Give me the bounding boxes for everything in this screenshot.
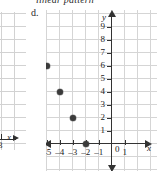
y-tick-label: 9: [94, 21, 105, 31]
x-axis-line: [46, 143, 149, 144]
y-tick-label: 3: [94, 99, 105, 109]
x-tick: [99, 140, 100, 145]
adjacent-grid: [0, 12, 26, 150]
y-tick: [107, 118, 112, 119]
y-axis-down-arrow-icon: [108, 165, 116, 171]
x-tick: [60, 140, 61, 145]
y-tick-label: 6: [94, 60, 105, 70]
y-tick: [107, 105, 112, 106]
scatter-plot: x y 0 –6–5–4–3–2–11 123456789: [46, 10, 157, 171]
data-point: [46, 63, 50, 69]
y-tick: [107, 92, 112, 93]
data-point: [70, 115, 76, 121]
adjacent-tick-label: 3: [0, 140, 3, 150]
data-point: [57, 89, 63, 95]
figure-letter-label: d.: [31, 7, 39, 18]
x-tick-label: 1: [117, 147, 133, 157]
adjacent-partial-figure: 3 x: [0, 12, 26, 150]
y-tick-label: 4: [94, 86, 105, 96]
x-tick: [47, 140, 48, 145]
x-tick: [125, 140, 126, 145]
y-tick-label: 5: [94, 73, 105, 83]
adjacent-x-axis-label: x: [7, 132, 11, 142]
y-tick: [107, 53, 112, 54]
y-tick: [107, 27, 112, 28]
y-tick-label: 8: [94, 34, 105, 44]
y-axis-up-arrow-icon: [108, 10, 116, 17]
y-tick-label: 1: [94, 125, 105, 135]
y-tick: [107, 131, 112, 132]
x-tick: [73, 140, 74, 145]
y-tick: [107, 66, 112, 67]
clipped-heading: linear pattern: [36, 0, 146, 5]
data-point: [83, 141, 89, 147]
x-tick-label: –1: [91, 147, 107, 157]
y-tick: [107, 79, 112, 80]
y-tick: [107, 40, 112, 41]
y-tick-label: 7: [94, 47, 105, 57]
x-axis-label: x: [147, 143, 151, 153]
y-tick-label: 2: [94, 112, 105, 122]
figure-panel: linear pattern 3 x d. x y 0 –6–5–4–3–2–1…: [0, 0, 157, 171]
adjacent-x-axis-arrow-icon: [13, 135, 19, 141]
